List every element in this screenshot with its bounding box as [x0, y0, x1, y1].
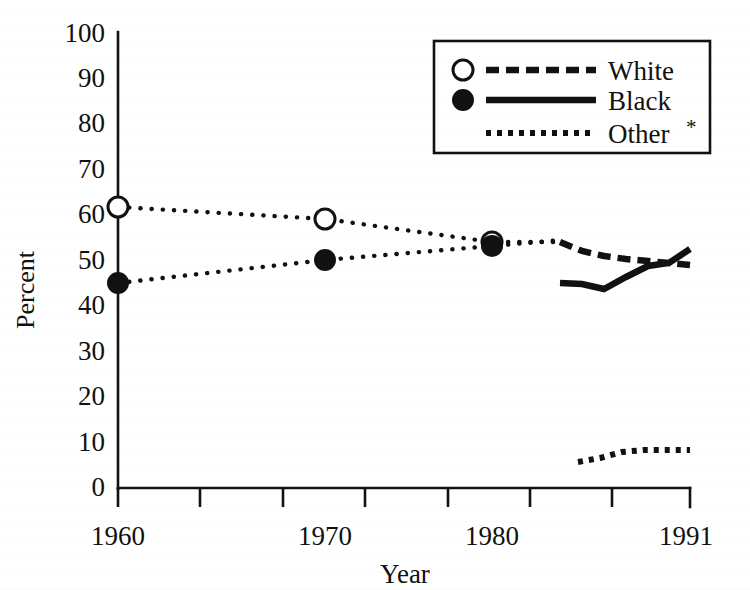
- legend-marker-open-circle-icon: [453, 60, 473, 80]
- legend-label-white: White: [608, 56, 674, 86]
- data-point-marker: [315, 209, 335, 229]
- x-tick-labels: 1960 1970 1980 1991: [91, 521, 713, 551]
- y-tick-label: 70: [78, 154, 105, 184]
- legend-label-black: Black: [608, 86, 671, 116]
- data-point-marker: [108, 273, 128, 293]
- legend: White Black Other *: [434, 41, 710, 153]
- data-point-marker: [482, 236, 502, 256]
- x-tick-label: 1970: [298, 521, 352, 551]
- x-tick-label: 1960: [91, 521, 145, 551]
- series-other-annual-line: [578, 450, 690, 462]
- data-point-marker: [315, 250, 335, 270]
- series-black-annual-line: [560, 249, 690, 289]
- series-black-markers: [108, 236, 502, 293]
- y-tick-label: 20: [78, 381, 105, 411]
- y-tick-label: 80: [78, 108, 105, 138]
- legend-label-other: Other: [608, 119, 669, 149]
- y-tick-label: 90: [78, 63, 105, 93]
- y-tick-label: 50: [78, 245, 105, 275]
- x-tick-label: 1980: [465, 521, 519, 551]
- y-tick-label: 60: [78, 199, 105, 229]
- x-axis-title: Year: [380, 559, 430, 589]
- legend-footnote-asterisk: *: [686, 115, 697, 139]
- chart-figure: 100 90 80 70 60 50 40 30 20 10 0 1960 19…: [0, 0, 750, 590]
- y-axis-title: Percent: [11, 250, 40, 329]
- y-tick-labels: 100 90 80 70 60 50 40 30 20 10 0: [65, 18, 106, 502]
- data-point-marker: [108, 197, 128, 217]
- y-tick-label: 30: [78, 336, 105, 366]
- y-tick-label: 0: [92, 472, 106, 502]
- line-chart-svg: 100 90 80 70 60 50 40 30 20 10 0 1960 19…: [0, 0, 750, 590]
- x-tick-marks: [118, 488, 612, 507]
- y-tick-label: 40: [78, 290, 105, 320]
- legend-marker-filled-circle-icon: [453, 90, 473, 110]
- series-white-markers: [108, 197, 502, 252]
- y-tick-label: 10: [78, 427, 105, 457]
- y-tick-label: 100: [65, 18, 106, 48]
- x-tick-label: 1991: [659, 521, 713, 551]
